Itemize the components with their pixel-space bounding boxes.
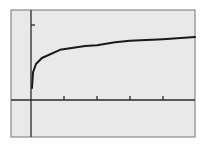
graphing-calculator-screen — [0, 0, 204, 146]
plot-area — [11, 10, 195, 137]
